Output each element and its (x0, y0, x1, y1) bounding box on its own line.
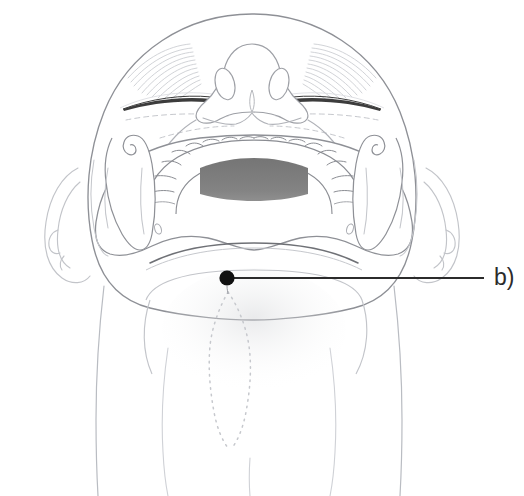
left-ear (45, 168, 90, 283)
anatomy-illustration-svg (0, 0, 524, 496)
anatomical-figure: b) (0, 0, 524, 496)
anterior-teeth-shading (200, 158, 308, 201)
marker-dot-b (219, 270, 234, 285)
annotation-label-b: b) (494, 266, 514, 289)
right-ear (414, 168, 459, 283)
